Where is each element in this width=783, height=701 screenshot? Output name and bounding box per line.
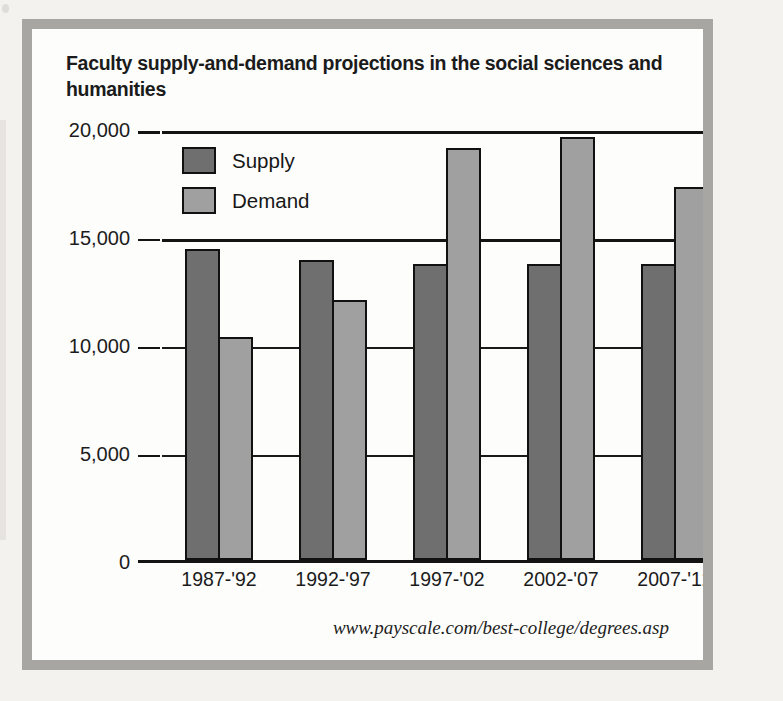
figure-canvas: Faculty supply-and-demand projections in… [32,29,703,660]
page-artifact-corner [2,4,9,13]
bar-supply-2007-'12 [641,264,676,560]
legend-label: Supply [232,149,295,173]
y-tick-5000 [138,455,160,457]
figure-frame: Faculty supply-and-demand projections in… [22,19,713,670]
bar-demand-1997-'02 [446,148,481,559]
source-attribution: www.payscale.com/best-college/degrees.as… [333,617,669,639]
bar-demand-2002-'07 [560,137,595,559]
page-artifact-edge [0,120,6,540]
bar-group [390,131,504,560]
y-axis-label: 0 [119,551,130,574]
y-axis-label: 10,000 [69,335,130,358]
legend-item-supply: Supply [182,147,310,174]
legend-swatch-demand [182,187,216,214]
bar-demand-2007-'12 [674,187,703,560]
y-axis-label: 5,000 [80,443,130,466]
bar-supply-1987-'92 [185,249,220,560]
y-axis-label: 20,000 [69,119,130,142]
y-axis-label: 15,000 [69,227,130,250]
x-axis-label-3: 2002-'07 [523,568,598,591]
x-axis-labels: 1987-'921992-'971997-'022002-'072007-'12 [162,568,703,598]
x-axis-label-1: 1992-'97 [295,568,370,591]
x-axis-line [138,560,703,564]
bar-supply-1992-'97 [299,260,334,560]
y-tick-10000 [138,347,160,349]
legend-swatch-supply [182,147,216,174]
chart-title: Faculty supply-and-demand projections in… [66,51,666,102]
y-tick-15000 [138,239,160,241]
bar-group [504,131,618,560]
x-axis-label-2: 1997-'02 [409,568,484,591]
y-tick-20000 [138,131,160,134]
x-axis-label-4: 2007-'12 [637,568,703,591]
bar-demand-1987-'92 [218,337,253,560]
bar-demand-1992-'97 [332,300,367,559]
legend-item-demand: Demand [182,187,310,214]
bar-supply-1997-'02 [413,264,448,560]
x-axis-label-0: 1987-'92 [181,568,256,591]
legend-label: Demand [232,189,310,213]
bar-supply-2002-'07 [527,264,562,560]
bar-group [618,131,703,560]
chart-legend: SupplyDemand [182,147,310,214]
